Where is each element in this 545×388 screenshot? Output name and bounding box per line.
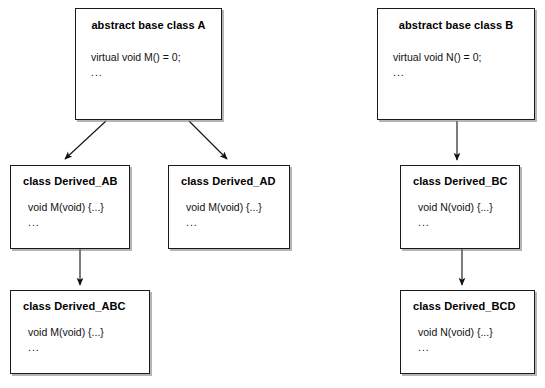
class-member-line: void M(void) {...} (28, 200, 129, 215)
class-member-line: virtual void N() = 0; (393, 50, 534, 65)
class-member-line: void N(void) {...} (418, 325, 534, 340)
class-title: class Derived_AB (11, 166, 129, 187)
class-member-line: void M(void) {...} (186, 200, 289, 215)
class-box-abstract-base-class-a[interactable]: abstract base class A virtual void M() =… (75, 8, 222, 120)
class-member-ellipsis: ... (418, 340, 534, 355)
class-box-abstract-base-class-b[interactable]: abstract base class B virtual void N() =… (377, 8, 535, 120)
class-member-ellipsis: ... (393, 65, 534, 80)
class-body: void N(void) {...} ... (401, 312, 534, 355)
class-body: virtual void M() = 0; ... (76, 31, 221, 80)
class-box-derived-bcd[interactable]: class Derived_BCD void N(void) {...} ... (400, 290, 535, 374)
class-body: void M(void) {...} ... (11, 312, 149, 355)
class-body: virtual void N() = 0; ... (378, 31, 534, 80)
class-body: void M(void) {...} ... (169, 187, 289, 230)
class-member-ellipsis: ... (418, 215, 519, 230)
class-box-derived-ab[interactable]: class Derived_AB void M(void) {...} ... (10, 165, 130, 249)
class-title: abstract base class A (76, 9, 221, 31)
class-title: abstract base class B (378, 9, 534, 31)
class-member-line: virtual void M() = 0; (91, 50, 221, 65)
class-title: class Derived_AD (169, 166, 289, 187)
class-title: class Derived_BC (401, 166, 519, 187)
class-title: class Derived_BCD (401, 291, 534, 312)
class-box-derived-bc[interactable]: class Derived_BC void N(void) {...} ... (400, 165, 520, 249)
class-title: class Derived_ABC (11, 291, 149, 312)
class-member-line: void N(void) {...} (418, 200, 519, 215)
class-member-ellipsis: ... (28, 215, 129, 230)
class-box-derived-ad[interactable]: class Derived_AD void M(void) {...} ... (168, 165, 290, 249)
class-member-line: void M(void) {...} (28, 325, 149, 340)
diagram-canvas: abstract base class A virtual void M() =… (0, 0, 545, 388)
class-member-ellipsis: ... (28, 340, 149, 355)
class-member-ellipsis: ... (186, 215, 289, 230)
edge-base-a-to-derived-ad (189, 121, 227, 159)
class-body: void M(void) {...} ... (11, 187, 129, 230)
class-member-ellipsis: ... (91, 65, 221, 80)
class-box-derived-abc[interactable]: class Derived_ABC void M(void) {...} ... (10, 290, 150, 374)
edge-base-a-to-derived-ab (65, 121, 106, 159)
class-body: void N(void) {...} ... (401, 187, 519, 230)
